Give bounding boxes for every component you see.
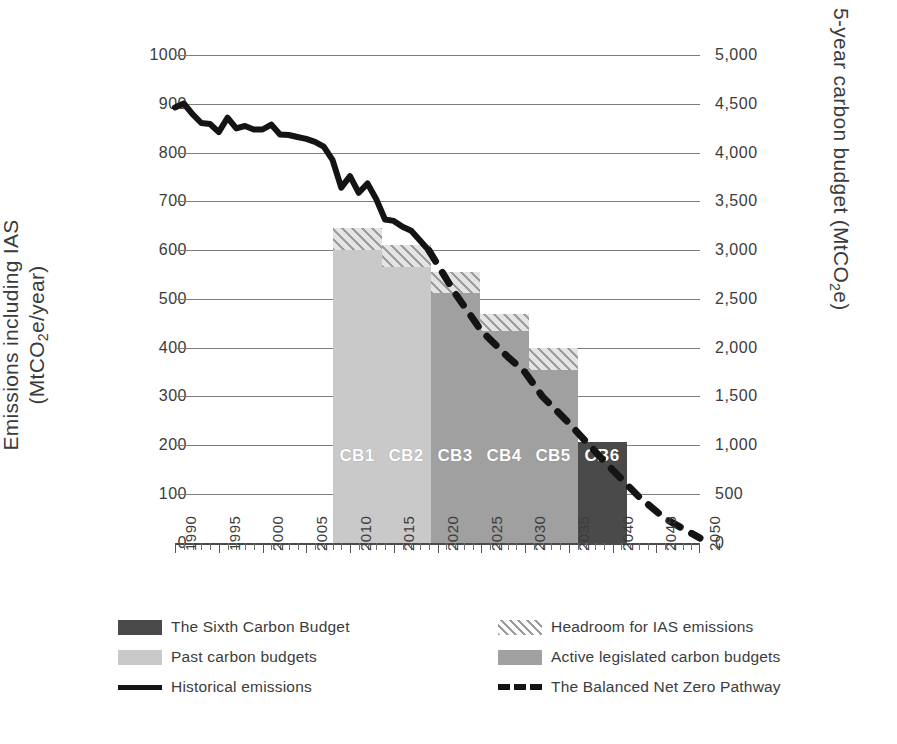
x-tick-minor [691, 543, 692, 550]
chart-figure: Emissions including IAS (MtCO2e/year) 5-… [0, 0, 897, 744]
x-tick-minor [333, 543, 334, 550]
x-tick-minor [639, 543, 640, 550]
x-tick-minor [385, 543, 386, 550]
x-label-2025: 2025 [488, 516, 505, 551]
x-tick-minor [464, 543, 465, 550]
y-tick-right-3500: 3,500 [715, 192, 758, 210]
x-tick-minor [604, 543, 605, 550]
x-tick-2035 [569, 543, 570, 553]
y-tick-right-4500: 4,500 [715, 95, 758, 113]
x-tick-minor [254, 543, 255, 550]
x-label-2020: 2020 [444, 516, 461, 551]
x-label-2015: 2015 [400, 516, 417, 551]
x-label-1990: 1990 [182, 516, 199, 551]
x-tick-minor [473, 543, 474, 550]
x-tick-1990 [175, 543, 176, 553]
plot-area: CB1 CB2 CB3 CB4 CB5 CB6 [175, 55, 700, 543]
x-tick-2000 [263, 543, 264, 553]
legend-swatch-active-legislated [498, 650, 542, 665]
legend-row-3: Historical emissions The Balanced Net Ze… [118, 672, 878, 702]
x-label-2050: 2050 [706, 516, 723, 551]
chart-legend: The Sixth Carbon Budget Headroom for IAS… [118, 612, 878, 702]
legend-item-balanced-net-zero-pathway[interactable]: The Balanced Net Zero Pathway [498, 678, 878, 696]
x-label-1995: 1995 [226, 516, 243, 551]
x-tick-1995 [219, 543, 220, 553]
x-tick-minor [245, 543, 246, 550]
x-tick-2050 [699, 543, 700, 553]
legend-swatch-historical-emissions [118, 685, 162, 690]
x-tick-2005 [306, 543, 307, 553]
x-tick-2045 [656, 543, 657, 553]
legend-label-historical-emissions: Historical emissions [171, 678, 312, 696]
x-tick-minor [429, 543, 430, 550]
y-axis-left-title-line1: Emissions including IAS [0, 120, 24, 550]
legend-item-active-legislated[interactable]: Active legislated carbon budgets [498, 648, 878, 666]
x-tick-minor [298, 543, 299, 550]
legend-label-balanced-net-zero-pathway: The Balanced Net Zero Pathway [551, 678, 781, 696]
historical-emissions-line [175, 104, 429, 251]
y-axis-left-title-line2: (MtCO2e/year) [24, 120, 52, 550]
legend-label-headroom: Headroom for IAS emissions [551, 618, 753, 636]
y-axis-right-title: 5-year carbon budget (MtCO2e) [827, 8, 853, 568]
legend-item-headroom[interactable]: Headroom for IAS emissions [498, 618, 878, 636]
y-tick-right-2500: 2,500 [715, 290, 758, 308]
y-tick-right-3000: 3,000 [715, 241, 758, 259]
legend-label-past-carbon-budgets: Past carbon budgets [171, 648, 317, 666]
x-tick-2010 [350, 543, 351, 553]
x-tick-minor [201, 543, 202, 550]
y-tick-right-1500: 1,500 [715, 387, 758, 405]
x-tick-minor [595, 543, 596, 550]
x-label-2000: 2000 [269, 516, 286, 551]
x-tick-2020 [438, 543, 439, 553]
y-tick-right-5000: 5,000 [715, 46, 758, 64]
x-tick-minor [210, 543, 211, 550]
x-tick-minor [508, 543, 509, 550]
x-label-2030: 2030 [531, 516, 548, 551]
x-label-2035: 2035 [575, 516, 592, 551]
x-label-2040: 2040 [619, 516, 636, 551]
legend-item-past-carbon-budgets[interactable]: Past carbon budgets [118, 648, 498, 666]
legend-label-active-legislated: Active legislated carbon budgets [551, 648, 781, 666]
x-tick-minor [341, 543, 342, 550]
x-tick-2040 [613, 543, 614, 553]
x-tick-minor [648, 543, 649, 550]
y-tick-right-500: 500 [715, 485, 743, 503]
x-tick-2015 [394, 543, 395, 553]
legend-item-sixth-carbon-budget[interactable]: The Sixth Carbon Budget [118, 618, 498, 636]
x-tick-minor [560, 543, 561, 550]
legend-row-1: The Sixth Carbon Budget Headroom for IAS… [118, 612, 878, 642]
legend-swatch-sixth-carbon-budget [118, 620, 162, 635]
x-tick-minor [289, 543, 290, 550]
legend-swatch-past-carbon-budgets [118, 650, 162, 665]
x-tick-2025 [481, 543, 482, 553]
x-tick-minor [376, 543, 377, 550]
legend-item-historical-emissions[interactable]: Historical emissions [118, 678, 498, 696]
x-label-2045: 2045 [662, 516, 679, 551]
legend-swatch-balanced-net-zero-pathway [498, 684, 542, 690]
x-tick-2030 [525, 543, 526, 553]
x-tick-minor [551, 543, 552, 550]
balanced-net-zero-pathway-line [429, 250, 700, 538]
series-overlay [175, 55, 700, 543]
x-tick-minor [420, 543, 421, 550]
legend-row-2: Past carbon budgets Active legislated ca… [118, 642, 878, 672]
x-label-2010: 2010 [357, 516, 374, 551]
x-tick-minor [683, 543, 684, 550]
x-tick-minor [516, 543, 517, 550]
y-tick-right-4000: 4,000 [715, 144, 758, 162]
y-tick-right-2000: 2,000 [715, 339, 758, 357]
y-tick-right-1000: 1,000 [715, 436, 758, 454]
legend-label-sixth-carbon-budget: The Sixth Carbon Budget [171, 618, 350, 636]
x-label-2005: 2005 [313, 516, 330, 551]
legend-swatch-headroom [498, 620, 542, 635]
